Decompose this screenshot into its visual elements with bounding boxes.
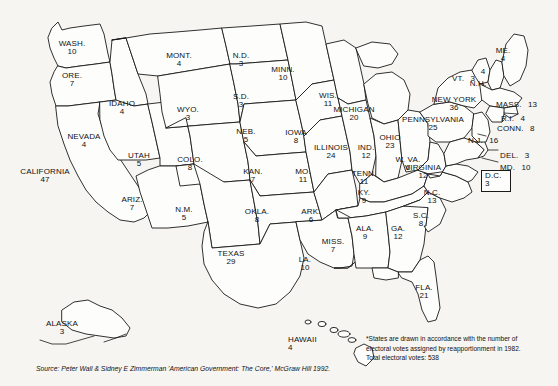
footnote: *States are drawn in accordance with the… xyxy=(366,334,556,363)
state-shapes xyxy=(40,22,528,366)
dc-callout-box: D.C. 3 xyxy=(481,170,511,192)
footnote-line-1: *States are drawn in accordance with the… xyxy=(366,334,556,344)
footnote-line-2: electoral votes assigned by reapportionm… xyxy=(366,344,556,354)
source-citation: Source: Peter Wall & Sidney E Zimmerman … xyxy=(36,365,330,372)
state-label-dc: D.C. 3 xyxy=(482,171,510,189)
footnote-line-3: Total electoral votes: 538 xyxy=(366,353,556,363)
state-name-dc: D.C. xyxy=(485,172,510,180)
state-votes-dc: 3 xyxy=(485,180,510,188)
electoral-vote-map: WASH. 10 ORE. 7 IDAHO 4 MONT. 4 WYO. 3 N… xyxy=(0,0,558,386)
us-map-outlines xyxy=(0,0,558,386)
